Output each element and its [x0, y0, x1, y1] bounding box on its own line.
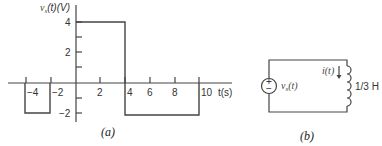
y-tick-label: 4	[65, 17, 71, 28]
source-label: vs(t)	[281, 80, 298, 93]
pulse-positive	[76, 22, 125, 83]
y-tick-label: 2	[65, 47, 71, 58]
x-tick-label: 6	[147, 87, 153, 98]
x-axis-label: t(s)	[218, 87, 232, 98]
circuit-b	[262, 60, 352, 112]
x-tick-label: 10	[201, 87, 213, 98]
y-axis-label: vs(t)(V)	[40, 2, 70, 15]
source-minus: −	[266, 83, 272, 94]
caption-b: (b)	[300, 129, 314, 143]
pulse-negative-right	[125, 83, 199, 115]
current-label: i(t)	[322, 65, 335, 77]
inductor-label: 1/3 H	[355, 81, 379, 92]
inductor-icon	[347, 66, 351, 106]
wire-bottom	[269, 93, 347, 112]
x-tick-label: 4	[127, 87, 133, 98]
x-tick-label: −4	[27, 87, 39, 98]
caption-a: (a)	[101, 125, 115, 139]
figure-canvas: vs(t)(V) 4 2 −2 −4 −2 2 4 6 8 10 t(s) (a…	[0, 0, 382, 146]
x-tick-label: −2	[52, 87, 64, 98]
x-tick-label: 2	[97, 87, 103, 98]
y-tick-label: −2	[59, 108, 71, 119]
x-tick-label: 8	[172, 87, 178, 98]
wire-top	[269, 60, 347, 79]
waveform	[25, 22, 199, 115]
